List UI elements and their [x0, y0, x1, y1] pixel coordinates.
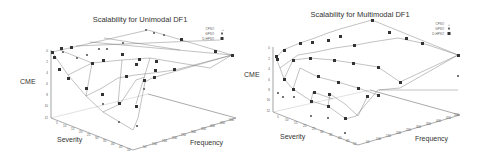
svg-text:12: 12 — [267, 109, 271, 113]
chart-unimodal: Scalability for Unimodal DF1 CPSO GPSO D… — [0, 0, 240, 159]
svg-text:100: 100 — [152, 142, 157, 146]
svg-text:400: 400 — [436, 119, 441, 123]
svg-text:5: 5 — [277, 115, 279, 119]
svg-text:400: 400 — [210, 124, 215, 128]
svg-text:20: 20 — [303, 124, 307, 128]
svg-text:50: 50 — [366, 140, 370, 144]
y-axis-label: Frequency — [190, 139, 224, 147]
svg-text:12: 12 — [45, 116, 49, 120]
svg-text:250: 250 — [406, 128, 411, 132]
svg-text:8: 8 — [46, 93, 48, 97]
z-axis-label: CME — [244, 71, 260, 78]
legend-gpso: GPSO — [205, 32, 214, 36]
svg-text:2: 2 — [268, 57, 270, 61]
svg-text:45: 45 — [346, 139, 350, 143]
dhpso-markers — [51, 38, 234, 108]
svg-text:20: 20 — [79, 130, 83, 134]
svg-text:45: 45 — [119, 145, 123, 149]
svg-text:6: 6 — [268, 78, 270, 82]
chart-title: Scalability for Multimodal DF1 — [310, 10, 409, 19]
svg-text:8: 8 — [268, 88, 270, 92]
svg-text:300: 300 — [191, 130, 196, 134]
svg-text:50: 50 — [353, 142, 357, 146]
svg-text:+: + — [222, 28, 224, 32]
svg-text:0: 0 — [268, 46, 270, 50]
z-ticks: 0 2 4 6 8 10 12 — [45, 49, 49, 120]
svg-text:500: 500 — [454, 113, 459, 117]
svg-text:35: 35 — [329, 133, 333, 137]
svg-text:200: 200 — [396, 131, 401, 135]
svg-text:15: 15 — [71, 127, 75, 131]
svg-text:450: 450 — [446, 116, 451, 120]
svg-text:35: 35 — [103, 139, 107, 143]
legend-cpso: CPSO — [435, 22, 444, 26]
x-axis-label: Severity — [57, 136, 83, 144]
svg-text:50: 50 — [143, 145, 147, 149]
svg-text:40: 40 — [338, 136, 342, 140]
svg-text:6: 6 — [46, 82, 48, 86]
svg-text:+: + — [448, 23, 450, 27]
svg-text:10: 10 — [63, 124, 67, 128]
chart-multimodal: Scalability for Multimodal DF1 CPSO GPSO… — [240, 0, 480, 159]
legend: CPSO GPSO D-HPSO + — [202, 27, 224, 41]
svg-text:300: 300 — [416, 125, 421, 129]
svg-text:30: 30 — [95, 136, 99, 140]
svg-text:50: 50 — [127, 148, 131, 152]
svg-text:10: 10 — [285, 118, 289, 122]
svg-text:25: 25 — [312, 127, 316, 131]
svg-text:10: 10 — [45, 104, 49, 108]
svg-text:450: 450 — [220, 121, 225, 125]
svg-text:40: 40 — [111, 142, 115, 146]
svg-text:350: 350 — [201, 127, 206, 131]
chart-unimodal-svg: Scalability for Unimodal DF1 CPSO GPSO D… — [0, 0, 240, 159]
legend-cpso: CPSO — [205, 27, 214, 31]
svg-text:30: 30 — [320, 130, 324, 134]
chart-multimodal-svg: Scalability for Multimodal DF1 CPSO GPSO… — [240, 0, 480, 159]
gpso-markers — [62, 29, 165, 127]
svg-text:10: 10 — [267, 98, 271, 102]
z-ticks: 0 2 4 6 8 10 12 — [267, 46, 271, 113]
svg-text:350: 350 — [426, 122, 431, 126]
svg-text:150: 150 — [386, 134, 391, 138]
legend-dhpso: D-HPSO — [432, 32, 444, 36]
svg-text:4: 4 — [46, 71, 48, 75]
svg-text:4: 4 — [268, 67, 270, 71]
svg-text:5: 5 — [56, 121, 58, 125]
svg-text:250: 250 — [181, 133, 186, 137]
svg-text:0: 0 — [46, 49, 48, 53]
x-axis-label: Severity — [280, 133, 306, 141]
svg-text:150: 150 — [162, 139, 167, 143]
chart-title: Scalability for Unimodal DF1 — [93, 15, 188, 24]
y-axis-label: Frequency — [415, 135, 449, 143]
legend-gpso: GPSO — [435, 27, 444, 31]
z-axis-label: CME — [20, 78, 36, 85]
surface — [276, 20, 458, 119]
svg-text:500: 500 — [229, 118, 234, 122]
svg-text:25: 25 — [87, 133, 91, 137]
surface — [52, 30, 232, 130]
svg-text:200: 200 — [172, 136, 177, 140]
svg-text:15: 15 — [294, 121, 298, 125]
legend: CPSO GPSO D-HPSO + — [432, 22, 450, 36]
svg-text:100: 100 — [376, 137, 381, 141]
svg-text:2: 2 — [46, 60, 48, 64]
